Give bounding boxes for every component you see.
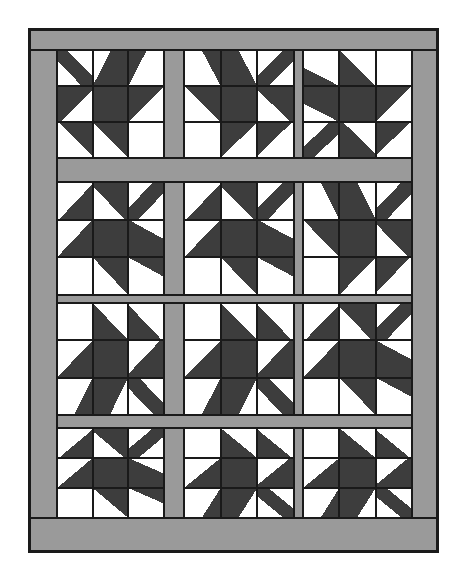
blocks-layer [57,50,412,518]
block-unit-8 [221,340,258,377]
block-r2-c3[interactable] [303,182,412,295]
sashing-horizontal-1 [57,158,412,182]
block-unit-15 [376,50,412,86]
block-unit-15 [303,428,339,458]
block-unit-15 [57,257,93,295]
block-unit-15 [303,378,339,415]
block-unit-8 [339,220,375,258]
block-unit-8 [339,340,375,377]
block-unit-15 [184,122,221,158]
border-right [412,29,437,551]
block-r4-c2[interactable] [184,428,294,518]
border-left [29,29,57,551]
block-unit-8 [221,220,258,258]
border-bottom [29,518,437,551]
block-unit-8 [221,458,258,488]
sashing-horizontal-3 [57,415,412,428]
block-unit-8 [221,86,258,122]
block-unit-15 [184,257,221,295]
block-unit-8 [93,86,129,122]
block-unit-15 [57,303,93,340]
sashing-vertical-1 [164,50,184,518]
quilt-illustration [0,0,464,579]
block-unit-15 [57,488,93,518]
block-r4-c3[interactable] [303,428,412,518]
sashing-vertical-2 [294,50,303,518]
block-unit-15 [184,428,221,458]
block-r2-c1[interactable] [57,182,164,295]
quilt-root [29,29,437,551]
block-unit-8 [93,458,129,488]
block-r1-c1[interactable] [57,50,164,158]
block-r4-c1[interactable] [57,428,164,518]
block-r1-c2[interactable] [184,50,294,158]
border-top [29,29,437,50]
block-unit-15 [184,303,221,340]
block-r3-c3[interactable] [303,303,412,415]
block-r3-c1[interactable] [57,303,164,415]
block-r3-c2[interactable] [184,303,294,415]
block-unit-15 [128,122,164,158]
block-unit-15 [303,257,339,295]
block-r1-c3[interactable] [303,50,412,158]
block-unit-8 [339,86,375,122]
block-unit-8 [93,340,129,377]
block-unit-8 [93,220,129,258]
block-unit-8 [339,458,375,488]
sashing-horizontal-2 [57,295,412,303]
block-r2-c2[interactable] [184,182,294,295]
quilt-diagram-canvas: Quilt Pattern Diagram Maple Leaf Three-b… [0,0,464,579]
